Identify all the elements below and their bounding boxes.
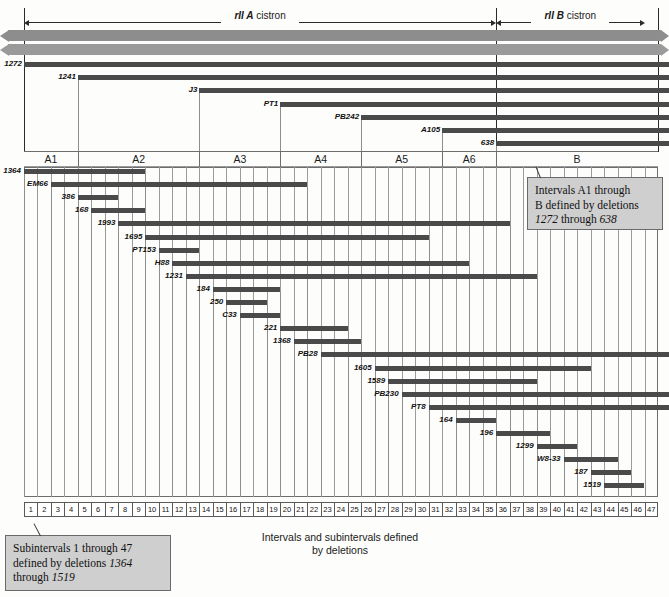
scale-cell-17: 17	[240, 503, 253, 516]
scale-cell-3: 3	[51, 503, 64, 516]
scale-cell-42: 42	[577, 503, 590, 516]
subinterval-deletion-label-PT8: PT8	[379, 403, 426, 411]
interval-cell-A2: A2	[78, 152, 199, 167]
subintervals-callout-line3-pre: through	[13, 571, 52, 583]
subinterval-deletion-bar-1519	[604, 483, 644, 488]
scale-divider-6	[91, 502, 92, 517]
interval-deletion-dropline-J3	[199, 93, 200, 152]
subinterval-deletion-bar-184	[213, 287, 280, 292]
scale-cell-41: 41	[564, 503, 577, 516]
cistron-rule-right-1	[609, 22, 639, 23]
interval-cell-A1: A1	[24, 152, 78, 167]
interval-deletion-bar-PB242	[361, 115, 669, 120]
scale-divider-15	[213, 502, 214, 517]
interval-deletion-dropline-PB242	[361, 120, 362, 152]
scale-divider-44	[604, 502, 605, 517]
scale-cell-5: 5	[78, 503, 91, 516]
scale-cell-11: 11	[159, 503, 172, 516]
subinterval-deletion-bar-W8-33	[564, 457, 618, 462]
subintervals-callout: Subintervals 1 through 47 defined by del…	[5, 535, 171, 591]
subinterval-guide-4	[64, 167, 65, 497]
scale-divider-23	[321, 502, 322, 517]
subintervals-callout-line2: defined by deletions 1364	[13, 556, 163, 571]
subinterval-deletion-startline-1368	[294, 344, 295, 497]
scale-divider-2	[37, 502, 38, 517]
interval-cell-A6: A6	[442, 152, 496, 167]
subintervals-callout-del-end: 1519	[52, 571, 75, 583]
subinterval-deletion-startline-1993	[118, 226, 119, 497]
scale-cell-6: 6	[91, 503, 104, 516]
subinterval-deletion-startline-1231	[186, 279, 187, 497]
scale-divider-36	[496, 502, 497, 517]
interval-separator-A3	[199, 151, 200, 167]
scale-cell-12: 12	[172, 503, 185, 516]
scale-cell-46: 46	[631, 503, 644, 516]
subinterval-deletion-bar-168	[91, 208, 145, 213]
subinterval-deletion-label-1231: 1231	[136, 272, 183, 280]
subinterval-deletion-bar-1695	[145, 235, 428, 240]
scale-cell-32: 32	[442, 503, 455, 516]
scale-divider-45	[618, 502, 619, 517]
subinterval-deletion-bar-EM66	[51, 182, 307, 187]
scale-divider-5	[78, 502, 79, 517]
subinterval-deletion-startline-386	[78, 200, 79, 497]
scale-divider-14	[199, 502, 200, 517]
interval-deletion-bar-A105	[442, 128, 669, 133]
subinterval-deletion-startline-PB28	[321, 357, 322, 497]
interval-cell-A3: A3	[199, 152, 280, 167]
interval-deletion-bar-1272	[24, 62, 669, 67]
subinterval-deletion-startline-1589	[388, 384, 389, 497]
scale-cell-34: 34	[469, 503, 482, 516]
subinterval-guide-7	[105, 167, 106, 497]
scale-divider-46	[631, 502, 632, 517]
interval-deletion-label-PT1: PT1	[228, 100, 278, 108]
subintervals-callout-line2-pre: defined by deletions	[13, 557, 109, 569]
cistron-word-1: cistron	[564, 10, 596, 21]
subinterval-deletion-bar-PT153	[159, 248, 199, 253]
scale-cell-27: 27	[375, 503, 388, 516]
scale-cell-4: 4	[64, 503, 77, 516]
scale-cell-36: 36	[496, 503, 509, 516]
scale-divider-9	[132, 502, 133, 517]
interval-separator-A4	[280, 151, 281, 167]
subinterval-deletion-label-1695: 1695	[95, 233, 142, 241]
ribbon-notch-right-1	[661, 44, 669, 56]
subinterval-deletion-label-164: 164	[406, 416, 453, 424]
subinterval-deletion-bar-1589	[388, 379, 536, 384]
subinterval-deletion-startline-1519	[604, 488, 605, 497]
interval-deletion-bar-1241	[78, 75, 669, 80]
subinterval-deletion-startline-184	[213, 292, 214, 497]
interval-deletion-label-PB242: PB242	[309, 113, 359, 121]
subinterval-deletion-endline-1993	[510, 226, 511, 497]
scale-divider-31	[429, 502, 430, 517]
subinterval-deletion-label-PB28: PB28	[271, 350, 318, 358]
scale-divider-32	[442, 502, 443, 517]
subinterval-deletion-label-W8-33: W8-33	[514, 455, 561, 463]
scale-cell-8: 8	[118, 503, 131, 516]
scale-cell-21: 21	[294, 503, 307, 516]
subinterval-deletion-label-184: 184	[163, 285, 210, 293]
subinterval-deletion-startline-C33	[240, 318, 241, 497]
ribbon-notch-left-0	[0, 30, 9, 42]
figure-caption-line2: by deletions	[200, 544, 480, 557]
interval-deletion-dropline-PT1	[280, 107, 281, 152]
subinterval-deletion-bar-1605	[375, 366, 591, 371]
cistron-rule-left-0	[29, 22, 221, 23]
scale-divider-8	[118, 502, 119, 517]
subinterval-deletion-label-386: 386	[28, 193, 75, 201]
scale-cell-39: 39	[537, 503, 550, 516]
scale-divider-3	[51, 502, 52, 517]
intervals-callout-line3: 1272 through 638	[535, 212, 655, 227]
subinterval-guide-35	[483, 167, 484, 497]
cistron-word-0: cistron	[253, 10, 285, 21]
scale-cell-35: 35	[483, 503, 496, 516]
scale-cell-9: 9	[132, 503, 145, 516]
subinterval-guide-32	[442, 167, 443, 497]
scale-divider-34	[469, 502, 470, 517]
scale-cell-29: 29	[402, 503, 415, 516]
scale-divider-10	[145, 502, 146, 517]
scale-divider-11	[159, 502, 160, 517]
scale-divider-43	[591, 502, 592, 517]
subinterval-deletion-label-196: 196	[446, 429, 493, 437]
interval-deletion-label-1272: 1272	[0, 60, 22, 68]
